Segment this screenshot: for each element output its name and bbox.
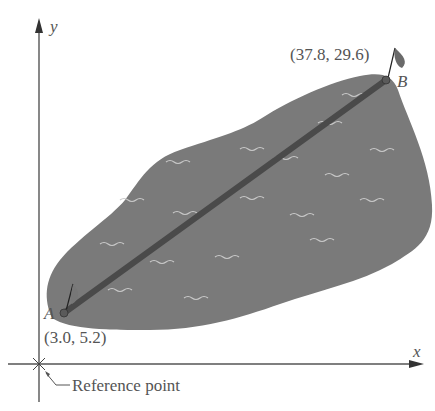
- reference-pointer-arrow-icon: [45, 371, 50, 377]
- x-axis-label: x: [412, 342, 421, 361]
- point-a-marker: [60, 309, 68, 317]
- x-axis-arrow-icon: [409, 360, 424, 368]
- point-a-coords: (3.0, 5.2): [44, 328, 106, 347]
- reference-point-label: Reference point: [72, 376, 180, 395]
- lake-diagram: y x A (3.0, 5.2) B (37.8, 29.6) Referenc…: [0, 0, 435, 411]
- lake-shape: [47, 74, 432, 330]
- y-axis-arrow-icon: [35, 18, 43, 33]
- point-b-label: B: [397, 72, 408, 91]
- point-a-label: A: [43, 304, 55, 323]
- reference-pointer: [46, 373, 70, 385]
- y-axis-label: y: [48, 17, 58, 36]
- point-b-coords: (37.8, 29.6): [290, 45, 369, 64]
- point-b-marker: [382, 76, 390, 84]
